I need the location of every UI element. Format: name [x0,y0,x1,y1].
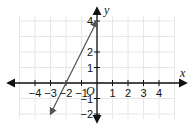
x-tick-label: −3 [44,87,57,99]
y-tick-label: 2 [87,46,93,58]
x-tick-label: −2 [60,87,73,99]
y-tick-label: −1 [80,93,93,105]
x-tick-label: 1 [109,87,115,99]
y-tick-label: 1 [87,62,93,74]
x-tick-label: 4 [156,87,162,99]
coordinate-plane: xyO −4−3−2−11234421−1−2 [0,0,194,130]
y-tick-label: −2 [80,108,93,120]
y-tick-label: 4 [87,15,93,27]
x-tick-label: 2 [125,87,131,99]
y-axis-label: y [103,3,110,17]
x-axis-label: x [179,66,186,80]
x-tick-label: −4 [29,87,42,99]
x-tick-label: 3 [140,87,146,99]
